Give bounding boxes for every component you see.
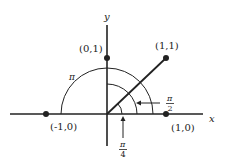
label-pi: π (68, 72, 76, 82)
ray-to-1-1 (107, 58, 166, 114)
arrow-pi-over-4-head (121, 116, 126, 121)
pi-over-2-denominator: 2 (168, 104, 173, 113)
arc-pi-over-4 (118, 103, 122, 114)
y-axis-label: y (103, 11, 110, 22)
label-1-0: (1,0) (171, 122, 195, 133)
arrow-pi-over-2-head (136, 101, 141, 106)
label-pi-over-4: π 4 (119, 140, 127, 159)
point-0-1 (104, 55, 110, 61)
pi-over-4-denominator: 4 (121, 150, 126, 159)
point-1-1 (163, 55, 169, 61)
label-1-1: (1,1) (155, 40, 179, 51)
x-axis-label: x (209, 113, 215, 124)
unit-angle-diagram: y x (0,1) (1,1) (-1,0) (1,0) π π 2 π 4 (0, 0, 229, 165)
pi-over-4-numerator: π (119, 140, 126, 149)
label-0-1: (0,1) (79, 43, 103, 54)
label-pi-over-2: π 2 (166, 94, 174, 113)
point-neg1-0 (43, 111, 49, 117)
pi-over-2-numerator: π (166, 94, 173, 103)
label-neg1-0: (-1,0) (50, 121, 77, 132)
